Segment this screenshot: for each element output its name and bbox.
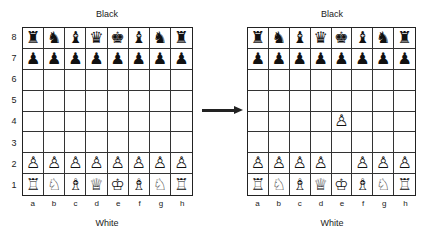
square-d6 <box>311 70 332 91</box>
black-knight-icon: ♞ <box>47 30 61 46</box>
black-pawn-icon: ♟ <box>153 51 167 67</box>
square-f1: ♗ <box>129 174 150 195</box>
square-h7: ♟ <box>394 49 415 70</box>
square-h6 <box>394 70 415 91</box>
square-c1: ♗ <box>290 174 311 195</box>
black-pawn-icon: ♟ <box>47 51 61 67</box>
white-rook-icon: ♖ <box>26 177 40 193</box>
square-e7: ♟ <box>108 49 129 70</box>
file-label: e <box>332 199 353 208</box>
black-queen-icon: ♛ <box>313 30 327 46</box>
square-a2: ♙ <box>248 153 269 174</box>
square-h6 <box>171 70 192 91</box>
white-pawn-icon: ♙ <box>26 155 40 171</box>
right-chessboard: ♜♞♝♛♚♝♞♜♟♟♟♟♟♟♟♟♙♙♙♙♙♙♙♙♖♘♗♕♔♗♘♖ <box>247 27 416 196</box>
black-pawn-icon: ♟ <box>397 51 411 67</box>
white-knight-icon: ♘ <box>272 177 286 193</box>
white-bishop-icon: ♗ <box>293 177 307 193</box>
square-d2: ♙ <box>86 153 107 174</box>
black-knight-icon: ♞ <box>272 30 286 46</box>
square-h3 <box>394 132 415 153</box>
square-g6 <box>150 70 171 91</box>
square-h8: ♜ <box>394 28 415 49</box>
square-f8: ♝ <box>129 28 150 49</box>
black-bishop-icon: ♝ <box>132 30 146 46</box>
file-label: d <box>86 199 107 208</box>
square-a3 <box>248 132 269 153</box>
black-pawn-icon: ♟ <box>68 51 82 67</box>
file-label: a <box>22 199 43 208</box>
square-f8: ♝ <box>352 28 373 49</box>
square-a4 <box>248 112 269 133</box>
black-rook-icon: ♜ <box>174 30 188 46</box>
square-d8: ♛ <box>86 28 107 49</box>
black-king-icon: ♚ <box>334 30 348 46</box>
file-label: h <box>172 199 193 208</box>
square-g5 <box>373 91 394 112</box>
square-e2 <box>332 153 353 174</box>
square-h2: ♙ <box>394 153 415 174</box>
black-pawn-icon: ♟ <box>26 51 40 67</box>
square-b3 <box>269 132 290 153</box>
square-c8: ♝ <box>65 28 86 49</box>
square-c5 <box>65 91 86 112</box>
square-g2: ♙ <box>373 153 394 174</box>
file-label: d <box>310 199 331 208</box>
white-pawn-icon: ♙ <box>397 155 411 171</box>
square-e4 <box>108 112 129 133</box>
square-d4 <box>86 112 107 133</box>
square-c8: ♝ <box>290 28 311 49</box>
black-pawn-icon: ♟ <box>293 51 307 67</box>
square-f3 <box>352 132 373 153</box>
rank-label: 3 <box>9 138 19 148</box>
black-pawn-icon: ♟ <box>89 51 103 67</box>
square-a6 <box>248 70 269 91</box>
white-pawn-icon: ♙ <box>313 155 327 171</box>
white-pawn-icon: ♙ <box>89 155 103 171</box>
square-c7: ♟ <box>65 49 86 70</box>
square-c3 <box>290 132 311 153</box>
black-pawn-icon: ♟ <box>132 51 146 67</box>
file-label: f <box>353 199 374 208</box>
square-f2: ♙ <box>352 153 373 174</box>
square-g8: ♞ <box>373 28 394 49</box>
rank-label: 2 <box>9 159 19 169</box>
square-g5 <box>150 91 171 112</box>
square-a3 <box>23 132 44 153</box>
white-bishop-icon: ♗ <box>355 177 369 193</box>
black-pawn-icon: ♟ <box>272 51 286 67</box>
square-b4 <box>44 112 65 133</box>
black-pawn-icon: ♟ <box>334 51 348 67</box>
square-d8: ♛ <box>311 28 332 49</box>
square-e7: ♟ <box>332 49 353 70</box>
square-b1: ♘ <box>44 174 65 195</box>
square-d6 <box>86 70 107 91</box>
square-f7: ♟ <box>352 49 373 70</box>
white-pawn-icon: ♙ <box>251 155 265 171</box>
white-pawn-icon: ♙ <box>272 155 286 171</box>
black-pawn-icon: ♟ <box>313 51 327 67</box>
white-pawn-icon: ♙ <box>68 155 82 171</box>
square-e2: ♙ <box>108 153 129 174</box>
white-pawn-icon: ♙ <box>174 155 188 171</box>
left-board-top-label: Black <box>22 9 192 19</box>
square-b2: ♙ <box>269 153 290 174</box>
square-c1: ♗ <box>65 174 86 195</box>
square-e1: ♔ <box>108 174 129 195</box>
white-rook-icon: ♖ <box>397 177 411 193</box>
square-d1: ♕ <box>311 174 332 195</box>
square-c7: ♟ <box>290 49 311 70</box>
square-h7: ♟ <box>171 49 192 70</box>
white-king-icon: ♔ <box>334 177 348 193</box>
square-h4 <box>394 112 415 133</box>
square-g7: ♟ <box>150 49 171 70</box>
square-g6 <box>373 70 394 91</box>
black-knight-icon: ♞ <box>376 30 390 46</box>
square-a2: ♙ <box>23 153 44 174</box>
square-a5 <box>248 91 269 112</box>
file-label: g <box>374 199 395 208</box>
square-h2: ♙ <box>171 153 192 174</box>
square-h1: ♖ <box>171 174 192 195</box>
square-b6 <box>44 70 65 91</box>
square-b8: ♞ <box>269 28 290 49</box>
